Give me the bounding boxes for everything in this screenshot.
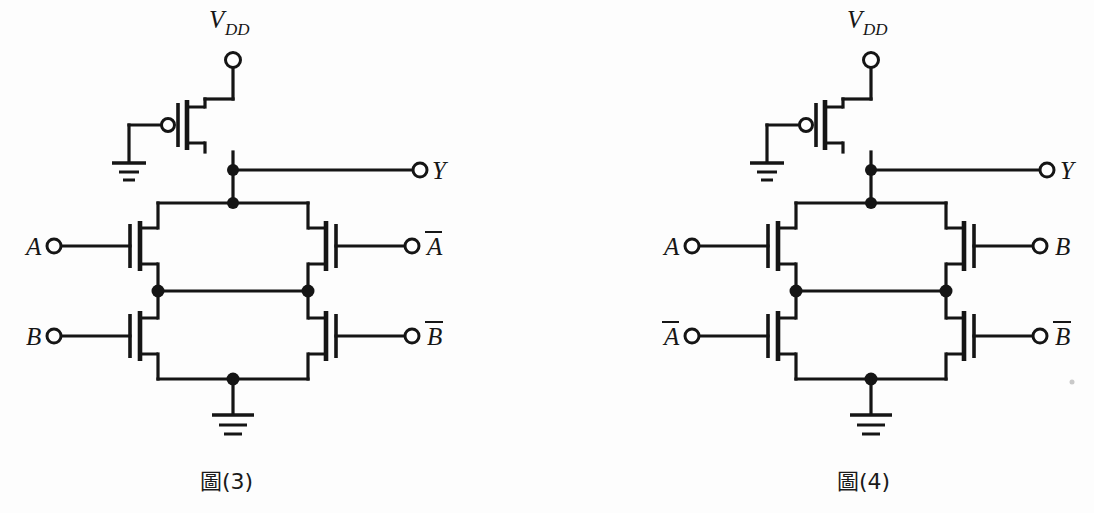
pmos-pullup[interactable] (129, 99, 205, 162)
input-a-terminal-circle[interactable] (685, 239, 699, 253)
nmos-top-left[interactable] (699, 221, 796, 271)
input-bbar-label: B (1055, 323, 1070, 350)
junction-y-node (227, 164, 239, 176)
junction-bridge-mid-right (302, 285, 315, 298)
input-bbar-terminal-circle[interactable] (405, 329, 419, 343)
input-b-label: B (1055, 233, 1070, 260)
input-bbar-label: B (427, 323, 442, 350)
nmos-bottom-right[interactable] (946, 311, 1033, 361)
junction-bridge-mid-left (790, 285, 803, 298)
ground-source (850, 415, 892, 434)
vdd-subscript-label: DD (224, 20, 250, 39)
nmos-top-left[interactable] (61, 221, 158, 271)
nmos-top-right[interactable] (946, 221, 1033, 271)
figure-3-caption: 圖(3) (200, 469, 253, 494)
input-a-label: A (662, 233, 680, 260)
output-y-net (227, 152, 427, 209)
figure-4: V DD Y A A B B 圖(4) (547, 0, 1094, 513)
figure-page: V DD Y A B A B 圖(3) (0, 0, 1094, 513)
input-abar-terminal-circle[interactable] (405, 239, 419, 253)
ground-gate (750, 163, 784, 180)
vdd-terminal-circle[interactable] (864, 53, 879, 68)
input-a-label: A (24, 233, 42, 260)
figure-4-schematic: V DD Y A A B B 圖(4) (547, 0, 1094, 513)
vdd-terminal-circle[interactable] (226, 53, 241, 68)
pmos-inversion-bubble-icon (162, 119, 175, 132)
bridge-network (790, 203, 953, 414)
bridge-network (152, 203, 315, 414)
figure-3-schematic: V DD Y A B A B 圖(3) (0, 0, 547, 513)
input-abar-label: A (662, 323, 680, 350)
pmos-pullup[interactable] (767, 99, 843, 162)
vdd-terminal-group (205, 53, 241, 100)
input-a-terminal-circle[interactable] (47, 239, 61, 253)
figure-3: V DD Y A B A B 圖(3) (0, 0, 547, 513)
input-bbar-terminal-circle[interactable] (1033, 329, 1047, 343)
figure-4-caption: 圖(4) (837, 469, 890, 494)
vdd-terminal-group (843, 53, 879, 100)
junction-bridge-mid-right (940, 285, 953, 298)
input-abar-label: A (425, 233, 443, 260)
vdd-subscript-label: DD (862, 20, 888, 39)
output-y-terminal-circle[interactable] (1040, 163, 1054, 177)
output-y-terminal-circle[interactable] (413, 163, 427, 177)
output-y-label: Y (1060, 157, 1077, 184)
nmos-bottom-left[interactable] (61, 311, 158, 361)
nmos-bottom-right[interactable] (308, 311, 405, 361)
ground-source (212, 415, 254, 434)
output-y-label: Y (432, 157, 449, 184)
output-y-net (865, 152, 1054, 209)
input-b-terminal-circle[interactable] (1033, 239, 1047, 253)
pmos-inversion-bubble-icon (800, 119, 813, 132)
junction-bridge-mid-left (152, 285, 165, 298)
ground-gate (112, 163, 146, 180)
nmos-bottom-left[interactable] (699, 311, 796, 361)
nmos-top-right[interactable] (308, 221, 405, 271)
input-abar-terminal-circle[interactable] (685, 329, 699, 343)
scan-speck (1070, 380, 1075, 385)
junction-y-node (865, 164, 877, 176)
input-b-label: B (26, 323, 41, 350)
input-b-terminal-circle[interactable] (47, 329, 61, 343)
